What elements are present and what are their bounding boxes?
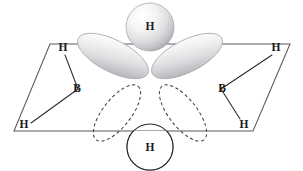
molecular-plane-group [14,44,290,131]
label-terminal-h-upper-right: H [272,41,281,53]
label-boron-left: B [73,82,81,94]
label-terminal-h-lower-left: H [20,118,29,130]
diborane-orbital-figure: H H B B H H H H [0,0,303,171]
diborane-diagram-canvas: H H B B H H H H [0,0,303,171]
bond-right-boron-to-upper-h [221,55,272,89]
label-terminal-h-lower-right: H [240,118,249,130]
molecular-plane-parallelogram [14,44,290,131]
left-boron-bonds-group [31,55,78,123]
label-boron-right: B [218,82,226,94]
label-terminal-h-upper-left: H [59,41,68,53]
bond-left-boron-to-lower-h [31,89,78,123]
label-bottom-bridge-hydrogen: H [146,141,155,153]
label-top-bridge-hydrogen: H [146,20,155,32]
right-boron-bonds-group [221,55,272,119]
